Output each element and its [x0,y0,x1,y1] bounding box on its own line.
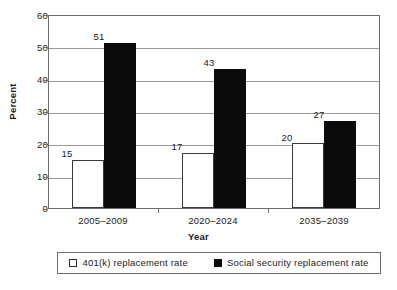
y-tick-label-60: 60 [4,11,48,21]
y-tick-label-50: 50 [4,43,48,53]
legend-label-social-security: Social security replacement rate [227,258,369,268]
y-tick-label-0: 0 [4,204,48,214]
value-label-401k-2035-2039: 20 [271,133,303,143]
y-tick-label-10: 10 [4,172,48,182]
gridline-50 [49,48,379,49]
value-label-social-security-2020-2024: 43 [193,58,225,68]
x-tick-mark-2 [268,209,269,213]
value-label-social-security-2035-2039: 27 [303,110,335,120]
value-label-social-security-2005-2009: 51 [83,32,115,42]
y-axis-title: Percent [7,67,18,137]
x-category-label-2020-2024: 2020–2024 [158,215,268,226]
x-axis-title: Year [0,231,397,242]
x-category-label-2005-2009: 2005–2009 [48,215,158,226]
value-label-401k-2020-2024: 17 [161,142,193,152]
x-category-label-2035-2039: 2035–2039 [268,215,380,226]
y-tick-label-20: 20 [4,140,48,150]
bar-chart: 60 50 40 30 20 10 0 Percent 15 51 17 4 [0,0,397,290]
bar-social-security-2005-2009 [104,43,136,208]
legend-entry-401k: 401(k) replacement rate [69,258,187,268]
white-square-swatch-icon [69,259,77,267]
legend-label-401k: 401(k) replacement rate [82,258,187,268]
value-label-401k-2005-2009: 15 [51,149,83,159]
bar-401k-2035-2039 [292,143,324,208]
bar-social-security-2035-2039 [324,121,356,208]
legend-entry-social-security: Social security replacement rate [214,258,369,268]
legend: 401(k) replacement rate Social security … [57,252,381,274]
bar-social-security-2020-2024 [214,69,246,208]
bar-401k-2020-2024 [182,153,214,208]
y-axis: 60 50 40 30 20 10 0 [0,0,48,290]
black-square-swatch-icon [214,259,222,267]
x-tick-mark-1 [158,209,159,213]
bar-401k-2005-2009 [72,160,104,209]
